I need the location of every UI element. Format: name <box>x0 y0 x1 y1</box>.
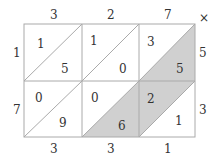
left-digit: 7 <box>13 103 21 117</box>
cell-tens: 3 <box>147 35 155 49</box>
lattice-diagram: 3 2 7 × 1 7 5 3 3 3 1 1 5 1 0 3 5 0 9 0 … <box>0 0 219 161</box>
right-digit: 5 <box>199 46 207 60</box>
cell-tens: 0 <box>35 91 43 105</box>
bottom-digit: 3 <box>50 142 58 156</box>
left-digit: 1 <box>13 46 21 60</box>
cell-ones: 9 <box>59 116 67 130</box>
cell-tens: 0 <box>91 91 99 105</box>
cell-ones: 1 <box>175 114 183 128</box>
cell-ones: 6 <box>118 119 126 133</box>
cell-tens: 1 <box>37 37 45 51</box>
times-symbol: × <box>199 11 209 25</box>
cell-tens: 2 <box>147 92 155 106</box>
bottom-digit: 1 <box>164 142 172 156</box>
cell-tens: 1 <box>90 34 98 48</box>
bottom-digit: 3 <box>107 142 115 156</box>
right-digit: 3 <box>199 103 207 117</box>
top-digit: 7 <box>164 8 172 22</box>
top-digit: 2 <box>107 8 115 22</box>
cell-ones: 5 <box>61 62 69 76</box>
cell-ones: 5 <box>176 62 184 76</box>
cell-ones: 0 <box>119 62 127 76</box>
top-digit: 3 <box>50 8 58 22</box>
